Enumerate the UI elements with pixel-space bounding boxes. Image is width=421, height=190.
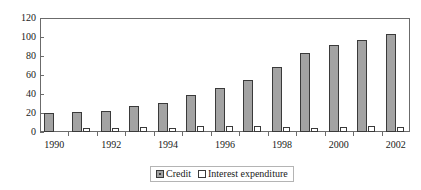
x-axis-tick-mark [239,132,240,136]
bar-interest-expenditure-1998 [283,127,290,132]
bar-interest-expenditure-1991 [83,128,90,132]
bar-credit-1998 [272,67,282,132]
x-axis-tick-mark [97,132,98,136]
legend-entry-interest-expenditure: Interest expenditure [198,169,288,179]
x-axis-tick-label: 1994 [152,139,184,150]
x-axis-tick-mark [68,132,69,136]
bar-credit-1995 [186,95,196,132]
x-axis-tick-mark [325,132,326,136]
bar-interest-expenditure-2001 [368,126,375,132]
y-axis-tick-label: 0 [0,127,36,137]
x-axis-tick-mark [382,132,383,136]
filled-square-icon [156,170,164,178]
x-axis-tick-mark [353,132,354,136]
bar-interest-expenditure-1999 [311,128,318,132]
bar-credit-2000 [329,45,339,132]
x-axis-tick-label: 2002 [380,139,412,150]
chart-container: 120100806040200 CreditInterest expenditu… [0,0,421,190]
x-axis-tick-label: 1992 [95,139,127,150]
x-axis-tick-mark [154,132,155,136]
x-axis-tick-label: 2000 [323,139,355,150]
bar-interest-expenditure-1995 [197,126,204,132]
bar-credit-1999 [300,53,310,132]
legend-entry-credit: Credit [156,169,191,179]
x-axis-tick-label: 1990 [38,139,70,150]
y-axis-tick-label: 80 [0,51,36,61]
bars-layer [40,18,410,132]
x-axis-tick-mark [125,132,126,136]
bar-credit-1994 [158,103,168,132]
y-axis-tick-label: 60 [0,70,36,80]
bar-credit-1996 [215,88,225,132]
hollow-square-icon [198,170,206,178]
y-axis-tick-label: 40 [0,89,36,99]
bar-interest-expenditure-1993 [140,127,147,132]
chart-legend: CreditInterest expenditure [150,166,294,182]
x-axis-tick-label: 1996 [209,139,241,150]
y-axis-tick-label: 20 [0,108,36,118]
y-axis-tick-mark [40,132,44,133]
bar-credit-1990 [44,113,54,132]
bar-credit-2002 [386,34,396,132]
legend-label: Credit [166,169,191,179]
bar-interest-expenditure-1997 [254,126,261,132]
x-axis-tick-mark [211,132,212,136]
bar-credit-1992 [101,111,111,132]
bar-interest-expenditure-1996 [226,126,233,132]
x-axis-tick-mark [268,132,269,136]
bar-interest-expenditure-2002 [397,127,404,132]
y-axis-tick-label: 120 [0,13,36,23]
bar-credit-1991 [72,112,82,132]
y-axis: 120100806040200 [0,10,36,140]
legend-label: Interest expenditure [208,169,288,179]
bar-interest-expenditure-1992 [112,128,119,132]
bar-credit-2001 [357,40,367,132]
bar-credit-1993 [129,106,139,132]
bar-interest-expenditure-1994 [169,128,176,132]
y-axis-tick-label: 100 [0,32,36,42]
bar-interest-expenditure-2000 [340,127,347,132]
bar-credit-1997 [243,80,253,132]
x-axis-tick-label: 1998 [266,139,298,150]
x-axis-tick-mark [182,132,183,136]
x-axis-tick-mark [296,132,297,136]
